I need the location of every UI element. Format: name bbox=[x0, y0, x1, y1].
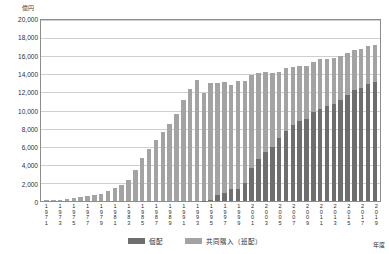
bar-segment-kyodo-konyu bbox=[167, 124, 172, 201]
bar-segment-kyodo-konyu bbox=[311, 62, 316, 112]
bar-slot bbox=[289, 20, 296, 201]
y-axis: 20,00018,00016,00014,00012,00010,0008,00… bbox=[0, 19, 38, 202]
bar-segment-kohai bbox=[345, 95, 350, 201]
bar-segment-kyodo-konyu bbox=[147, 149, 152, 201]
bar-segment-kohai bbox=[236, 189, 241, 201]
bar-slot bbox=[255, 20, 262, 201]
bar-segment-kohai bbox=[332, 104, 337, 201]
stacked-bar bbox=[202, 93, 207, 201]
bar-segment-kohai bbox=[297, 121, 302, 201]
bar-slot bbox=[221, 20, 228, 201]
stacked-bar bbox=[243, 81, 248, 201]
bar-slot bbox=[365, 20, 372, 201]
stacked-bar bbox=[318, 59, 323, 201]
chart-legend: 個配共同購入（班配） bbox=[0, 236, 389, 246]
bar-segment-kyodo-konyu bbox=[359, 49, 364, 88]
y-axis-tick-label: 10,000 bbox=[2, 107, 38, 114]
bar-slot bbox=[180, 20, 187, 201]
bar-segment-kohai bbox=[318, 109, 323, 201]
stacked-bar bbox=[338, 56, 343, 201]
bar-slot bbox=[166, 20, 173, 201]
bar-slot bbox=[84, 20, 91, 201]
stacked-bar bbox=[311, 62, 316, 201]
bar-slot bbox=[194, 20, 201, 201]
bar-segment-kyodo-konyu bbox=[291, 67, 296, 125]
bar-segment-kyodo-konyu bbox=[222, 82, 227, 194]
stacked-bar bbox=[167, 124, 172, 201]
bar-slot bbox=[262, 20, 269, 201]
bar-segment-kohai bbox=[270, 147, 275, 201]
bar-segment-kyodo-konyu bbox=[85, 196, 90, 201]
bar-slot bbox=[64, 20, 71, 201]
bar-slot bbox=[50, 20, 57, 201]
bar-slot bbox=[173, 20, 180, 201]
bar-segment-kyodo-konyu bbox=[345, 53, 350, 95]
legend-item[interactable]: 個配 bbox=[128, 236, 163, 246]
bar-slot bbox=[207, 20, 214, 201]
stacked-bar bbox=[92, 195, 97, 201]
stacked-bar bbox=[270, 73, 275, 201]
y-axis-tick-label: 20,000 bbox=[2, 16, 38, 23]
stacked-bar bbox=[72, 198, 77, 201]
legend-label: 個配 bbox=[149, 236, 163, 246]
stacked-bar bbox=[304, 66, 309, 201]
y-axis-tick-label: 6,000 bbox=[2, 144, 38, 151]
stacked-bar bbox=[325, 59, 330, 201]
stacked-bar bbox=[58, 200, 63, 201]
legend-item[interactable]: 共同購入（班配） bbox=[185, 236, 262, 246]
stacked-bar bbox=[133, 170, 138, 201]
stacked-bar bbox=[236, 81, 241, 201]
bar-slot bbox=[228, 20, 235, 201]
bar-segment-kohai bbox=[311, 112, 316, 201]
bar-segment-kohai bbox=[277, 138, 282, 201]
bar-segment-kohai bbox=[222, 193, 227, 201]
bar-segment-kyodo-konyu bbox=[277, 72, 282, 139]
bar-slot bbox=[344, 20, 351, 201]
bar-segment-kyodo-konyu bbox=[215, 83, 220, 195]
bar-segment-kyodo-konyu bbox=[58, 200, 63, 201]
stacked-bar bbox=[44, 200, 49, 201]
bar-slot bbox=[351, 20, 358, 201]
stacked-bar bbox=[147, 149, 152, 201]
bar-segment-kohai bbox=[263, 152, 268, 201]
bar-slot bbox=[77, 20, 84, 201]
legend-label: 共同購入（班配） bbox=[206, 236, 262, 246]
bar-slot bbox=[324, 20, 331, 201]
bar-segment-kohai bbox=[243, 183, 248, 201]
stacked-bar bbox=[208, 83, 213, 201]
bar-slot bbox=[330, 20, 337, 201]
bar-slot bbox=[118, 20, 125, 201]
y-axis-tick-label: 12,000 bbox=[2, 89, 38, 96]
bar-segment-kyodo-konyu bbox=[263, 72, 268, 152]
bar-slot bbox=[310, 20, 317, 201]
stacked-bar bbox=[65, 199, 70, 201]
stacked-bar bbox=[99, 194, 104, 202]
bar-segment-kyodo-konyu bbox=[72, 198, 77, 201]
bar-slot bbox=[200, 20, 207, 201]
y-axis-tick-label: 0 bbox=[2, 199, 38, 206]
bar-slot bbox=[372, 20, 379, 201]
bar-segment-kyodo-konyu bbox=[126, 180, 131, 202]
y-axis-tick-label: 8,000 bbox=[2, 125, 38, 132]
stacked-bar bbox=[154, 140, 159, 201]
stacked-bar bbox=[332, 58, 337, 201]
bar-slot bbox=[159, 20, 166, 201]
y-axis-tick-label: 18,000 bbox=[2, 34, 38, 41]
bar-segment-kyodo-konyu bbox=[181, 100, 186, 201]
bar-segment-kyodo-konyu bbox=[92, 195, 97, 201]
bar-segment-kyodo-konyu bbox=[249, 75, 254, 167]
stacked-bar bbox=[140, 158, 145, 201]
stacked-bar bbox=[195, 80, 200, 201]
bar-segment-kyodo-konyu bbox=[65, 199, 70, 201]
bar-slot bbox=[132, 20, 139, 201]
bar-segment-kyodo-konyu bbox=[208, 83, 213, 200]
stacked-bar bbox=[215, 83, 220, 201]
bar-slot bbox=[187, 20, 194, 201]
bar-slot bbox=[269, 20, 276, 201]
stacked-bar bbox=[51, 200, 56, 201]
bar-segment-kyodo-konyu bbox=[297, 66, 302, 121]
stacked-bar bbox=[161, 132, 166, 201]
bars-layer bbox=[41, 20, 380, 201]
bar-segment-kyodo-konyu bbox=[106, 191, 111, 201]
bar-segment-kohai bbox=[291, 125, 296, 201]
